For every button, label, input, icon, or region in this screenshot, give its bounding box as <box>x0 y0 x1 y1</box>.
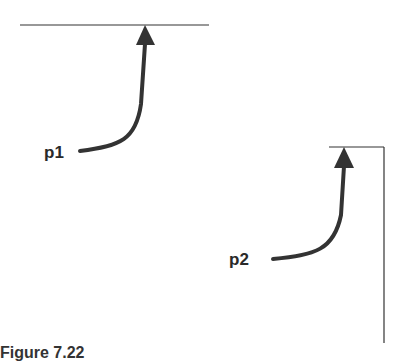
arrow-p1-shaft <box>80 44 145 151</box>
label-p2: p2 <box>229 251 249 268</box>
arrow-p2-head <box>334 147 354 168</box>
figure-caption: Figure 7.22 <box>0 344 84 362</box>
arrow-p2-shaft <box>273 166 344 259</box>
label-p1: p1 <box>44 144 64 161</box>
arrow-p1-head <box>136 25 155 45</box>
